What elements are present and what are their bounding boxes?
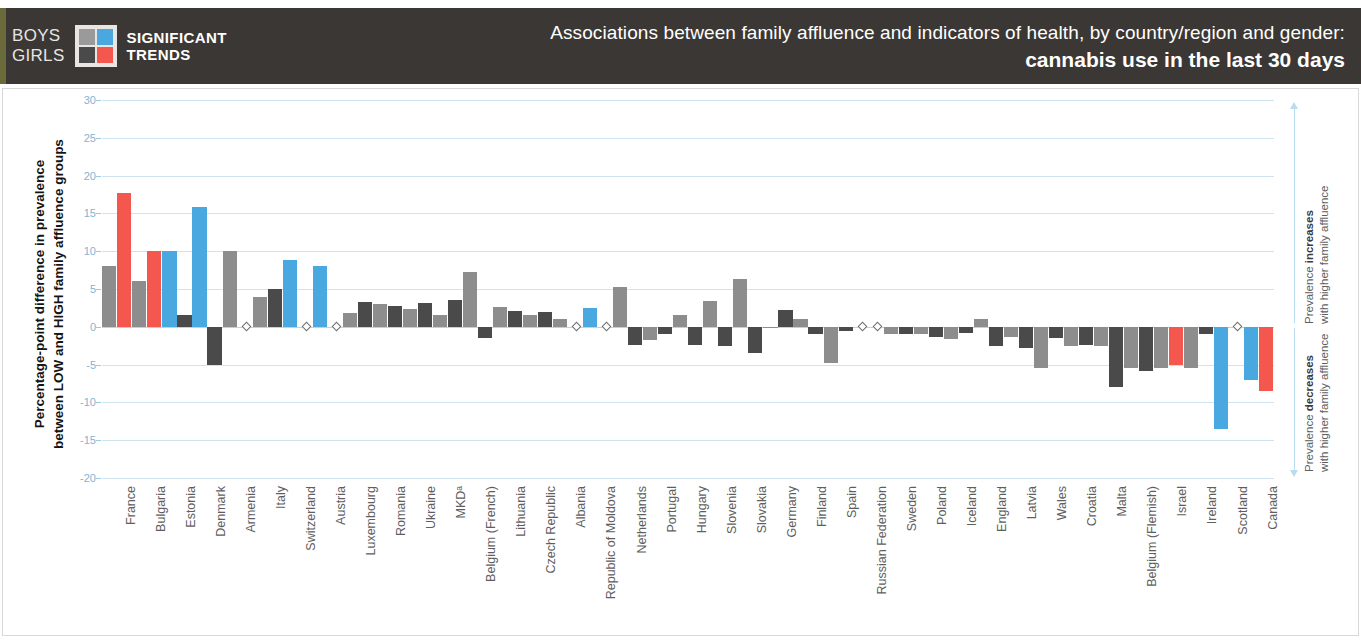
y-axis-title-line2: between LOW and HIGH family affluence gr… [49, 104, 68, 484]
y-tick-dash-5 [96, 289, 101, 290]
bar-girls [748, 327, 762, 353]
x-axis-label: Wales [1055, 448, 1069, 484]
bar-group [252, 100, 282, 478]
bar-girls [1199, 327, 1213, 335]
swatch-boys-significant [97, 29, 113, 45]
bar-girls [959, 327, 973, 333]
bar-boys [1214, 327, 1228, 429]
bar-boys [553, 319, 567, 327]
direction-annotations: Prevalence increases with higher family … [1284, 100, 1356, 478]
zero-value-marker [331, 321, 341, 331]
bar-girls [1079, 327, 1093, 345]
bar-boys [493, 307, 507, 327]
x-axis-label-text: Estonia [184, 484, 198, 528]
bar-group [433, 100, 463, 478]
bar-girls [1049, 327, 1063, 338]
bar-girls [989, 327, 1003, 347]
x-axis-label: Slovakia [755, 435, 769, 484]
x-axis-label: Hungary [695, 435, 709, 484]
x-axis-label: Spain [845, 450, 859, 484]
bar-group [793, 100, 823, 478]
zero-value-marker [872, 321, 882, 331]
decrease-arrow-line [1294, 328, 1295, 470]
bar-girls [478, 327, 492, 338]
x-axis-label-text: Russian Federation [875, 484, 889, 594]
x-axis-label-text: Ukraine [424, 484, 438, 529]
bar-group [913, 100, 943, 478]
bar-boys [914, 327, 928, 335]
y-tick-dash--15 [96, 440, 101, 441]
y-tick-dash-20 [96, 176, 101, 177]
x-axis-label: Israel [1175, 451, 1189, 484]
bar-group [1064, 100, 1094, 478]
bar-boys [403, 309, 417, 326]
bar-girls [538, 312, 552, 327]
x-axis-label: Austria [334, 443, 348, 484]
x-axis-label: Belgium (Flemish) [1145, 381, 1159, 484]
bar-group [102, 100, 132, 478]
x-axis-label-text: Albania [574, 484, 588, 528]
x-axis-label-text: Poland [935, 484, 949, 525]
header-bar: BOYS GIRLS SIGNIFICANT TRENDS Associatio… [0, 8, 1361, 84]
x-axis-label-text: Italy [274, 484, 288, 509]
bar-group [192, 100, 222, 478]
x-axis-label-text: Iceland [965, 484, 979, 526]
legend-gender-labels: BOYS GIRLS [12, 26, 65, 66]
zero-value-marker [241, 321, 251, 331]
y-tick-label--20: -20 [80, 472, 96, 484]
x-axis-label: Luxembourg [364, 413, 378, 485]
bar-boys [162, 251, 176, 327]
chart-title: Associations between family affluence an… [227, 20, 1361, 73]
zero-value-marker [572, 321, 582, 331]
x-axis-label: Canada [1266, 438, 1280, 484]
x-axis-label-text: Scotland [1236, 484, 1250, 535]
y-tick-label-10: 10 [84, 245, 96, 257]
increase-text-line2: with higher family affluence [1318, 186, 1330, 325]
swatch-boys-nonsignificant [79, 29, 95, 45]
legend-label-girls: GIRLS [12, 46, 65, 66]
bar-girls [268, 289, 282, 327]
increase-arrow-head [1290, 102, 1298, 109]
bar-group [1184, 100, 1214, 478]
x-axis-label: Albania [574, 440, 588, 484]
bar-boys [1154, 327, 1168, 369]
increase-text-line1: Prevalence increases [1303, 210, 1315, 324]
decrease-arrow-head [1290, 470, 1298, 477]
bar-group [703, 100, 733, 478]
bar-girls [718, 327, 732, 346]
bar-group [1094, 100, 1124, 478]
bar-boys [313, 266, 327, 326]
x-axis-label: Malta [1115, 451, 1129, 484]
bar-boys [343, 313, 357, 327]
x-axis-label-text: Czech Republic [544, 484, 558, 574]
bar-boys [944, 327, 958, 339]
bar-girls [1259, 327, 1273, 391]
y-tick-dash-10 [96, 251, 101, 252]
bar-boys [1184, 327, 1198, 369]
x-axis-label-text: France [124, 484, 138, 525]
decrease-text-line2: with higher family affluence [1318, 334, 1330, 473]
legend-color-swatch-grid [75, 25, 117, 67]
x-axis-label-text: MKDᵃ [454, 484, 468, 518]
x-axis-label: Denmark [214, 431, 228, 484]
x-axis-label-text: Slovakia [755, 484, 769, 533]
x-axis-label-text: Canada [1266, 484, 1280, 530]
bar-boys [283, 260, 297, 327]
legend-significant-trends: SIGNIFICANT TRENDS [127, 29, 227, 63]
x-axis-label-text: Lithuania [514, 484, 528, 537]
x-axis-label: Slovenia [725, 434, 739, 484]
bar-boys [643, 327, 657, 341]
bar-group [823, 100, 853, 478]
bar-group [673, 100, 703, 478]
bar-boys [673, 315, 687, 326]
x-axis-label: Sweden [905, 437, 919, 484]
bar-group [1244, 100, 1274, 478]
bar-boys [583, 308, 597, 327]
bar-boys [793, 319, 807, 327]
y-tick-label-15: 15 [84, 207, 96, 219]
x-axis-label-text: Portugal [665, 484, 679, 533]
bar-boys [433, 315, 447, 326]
bar-boys [1004, 327, 1018, 337]
y-tick-dash--20 [96, 478, 101, 479]
y-tick-dash-0 [96, 327, 101, 328]
